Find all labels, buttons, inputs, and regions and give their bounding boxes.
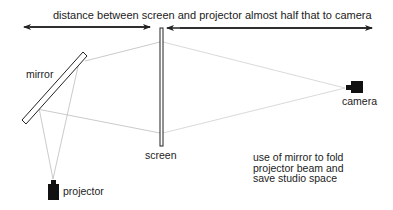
mirror-icon <box>22 52 87 124</box>
screen-icon <box>160 28 163 146</box>
projector-label: projector <box>63 186 104 197</box>
diagram-title: distance between screen and projector al… <box>53 10 372 21</box>
note-line: use of mirror to fold <box>253 152 363 163</box>
projector-beam <box>37 42 160 179</box>
camera-label: camera <box>342 96 377 107</box>
mirror-label: mirror <box>26 69 53 80</box>
screen-label: screen <box>145 150 177 161</box>
annotation-note: use of mirror to fold projector beam and… <box>253 152 363 184</box>
camera-view-lines <box>163 42 345 133</box>
projector-icon <box>48 180 59 200</box>
note-line: save studio space <box>253 173 363 184</box>
camera-icon <box>346 81 363 93</box>
